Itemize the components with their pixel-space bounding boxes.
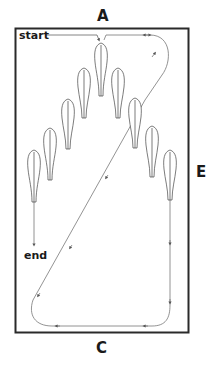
letter-e-label: E <box>196 165 206 180</box>
cone-left-2 <box>62 99 75 149</box>
cone-left-3 <box>44 128 57 180</box>
start-label: start <box>19 30 49 41</box>
cone-right-2 <box>129 98 142 148</box>
arena-diagram <box>0 0 209 368</box>
end-label: end <box>24 250 47 261</box>
letter-a-label: A <box>97 9 109 24</box>
cone-right-4 <box>164 150 177 200</box>
cone-left-1 <box>78 68 91 118</box>
cone-center <box>95 43 108 96</box>
cone-right-3 <box>146 126 159 177</box>
cone-left-4 <box>28 150 41 202</box>
cone-right-1 <box>112 68 125 118</box>
letter-c-label: C <box>96 341 107 356</box>
cones <box>28 43 177 202</box>
start-path <box>46 35 99 40</box>
